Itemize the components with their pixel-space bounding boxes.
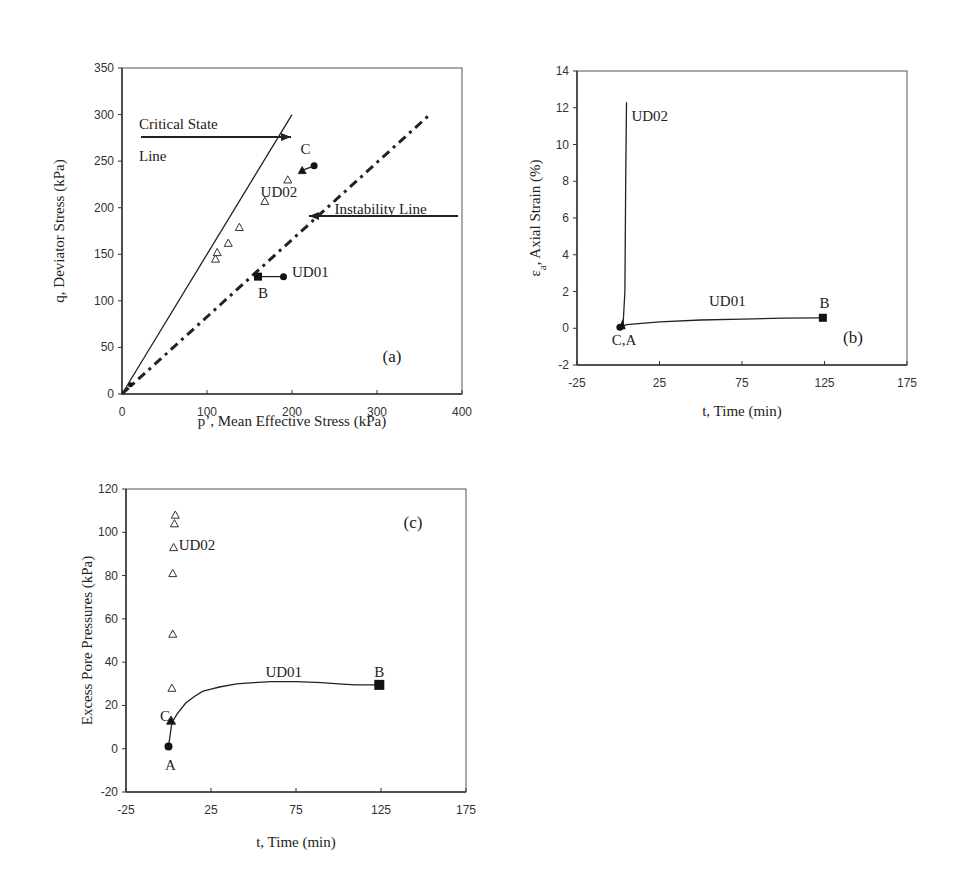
- panel-label: (c): [404, 513, 423, 532]
- annotation-c: C: [301, 141, 311, 157]
- y-tick-label: -2: [558, 358, 569, 372]
- x-tick-label: 175: [456, 803, 476, 817]
- y-tick-label: 120: [98, 482, 118, 496]
- y-tick-label: 100: [94, 294, 114, 308]
- y-tick-label: 150: [94, 247, 114, 261]
- series-ud01: [620, 318, 823, 328]
- y-tick-label: 2: [562, 285, 569, 299]
- x-tick-label: 175: [897, 376, 917, 390]
- start-point-marker: [280, 273, 287, 280]
- annotation-b: B: [820, 295, 830, 311]
- csl-arrow-icon-head: [281, 133, 291, 141]
- annotation-ud02: UD02: [631, 108, 668, 124]
- panel-label: (a): [383, 347, 402, 366]
- triangle-marker: [171, 511, 179, 518]
- point-b-marker: [819, 314, 827, 322]
- annotation-ud01: UD01: [292, 264, 329, 280]
- y-axis-label: q, Deviator Stress (kPa): [51, 159, 68, 302]
- annotation-b: B: [258, 285, 268, 301]
- x-axis-label: t, Time (min): [702, 403, 782, 420]
- annotation-ud02: UD02: [261, 184, 298, 200]
- triangle-marker: [169, 569, 177, 576]
- x-tick-label: -25: [568, 376, 586, 390]
- x-axis-label: t, Time (min): [256, 834, 336, 851]
- y-axis-label: Excess Pore Pressures (kPa): [79, 556, 96, 726]
- triangle-marker: [169, 630, 177, 637]
- y-tick-label: 0: [562, 321, 569, 335]
- y-axis-label: εa, Axial Strain (%): [527, 159, 548, 276]
- x-tick-label: 75: [289, 803, 303, 817]
- y-tick-label: 60: [105, 612, 119, 626]
- triangle-marker: [168, 684, 176, 691]
- annotation-ud01: UD01: [265, 664, 302, 680]
- y-tick-label: 6: [562, 211, 569, 225]
- x-axis-label: p’, Mean Effective Stress (kPa): [198, 413, 386, 430]
- y-tick-label: 300: [94, 108, 114, 122]
- triangle-marker: [170, 520, 178, 527]
- y-tick-label: 8: [562, 174, 569, 188]
- annotation-ud01: UD01: [709, 293, 746, 309]
- x-tick-label: 25: [653, 376, 667, 390]
- point-b-marker: [254, 273, 262, 281]
- annotation-line: Line: [139, 148, 167, 164]
- y-tick-label: 10: [556, 138, 570, 152]
- plot-frame: [126, 489, 466, 792]
- y-label-rest: , Axial Strain (%): [527, 159, 544, 265]
- y-tick-label: -20: [101, 785, 119, 799]
- chart-c-pore-pressure: -252575125175-20020406080100120t, Time (…: [79, 482, 476, 851]
- x-tick-label: 125: [814, 376, 834, 390]
- y-tick-label: 0: [107, 387, 114, 401]
- triangle-marker: [235, 223, 243, 230]
- x-tick-label: 75: [735, 376, 749, 390]
- y-tick-label: 80: [105, 569, 119, 583]
- annotation-c: C: [160, 708, 170, 724]
- x-tick-label: 25: [204, 803, 218, 817]
- annotation-instability-line: Instability Line: [335, 201, 427, 217]
- origin-marker: [128, 382, 133, 387]
- annotation-a: A: [165, 757, 176, 773]
- y-tick-label: 0: [111, 742, 118, 756]
- y-tick-label: 4: [562, 248, 569, 262]
- y-tick-label: 100: [98, 525, 118, 539]
- point-b-marker: [374, 680, 384, 690]
- series-ud02: [622, 102, 627, 326]
- annotation-b: B: [374, 664, 384, 680]
- y-tick-label: 350: [94, 61, 114, 75]
- panel-label: (b): [843, 328, 863, 347]
- chart-a-stress-path: 0100200300400050100150200250300350p’, Me…: [51, 61, 472, 430]
- instability-arrow-icon-head: [309, 212, 319, 220]
- annotation-c-a: C,A: [612, 332, 637, 348]
- y-tick-label: 40: [105, 655, 119, 669]
- y-tick-label: 250: [94, 154, 114, 168]
- x-tick-label: 0: [119, 405, 126, 419]
- triangle-marker: [224, 239, 232, 246]
- triangle-marker: [170, 543, 178, 550]
- point-a-marker: [165, 743, 173, 751]
- y-tick-label: 200: [94, 201, 114, 215]
- figure: 0100200300400050100150200250300350p’, Me…: [0, 0, 960, 877]
- annotation-ud02: UD02: [179, 537, 216, 553]
- x-tick-label: -25: [117, 803, 135, 817]
- y-tick-label: 12: [556, 101, 570, 115]
- x-tick-label: 400: [452, 405, 472, 419]
- triangle-marker: [213, 248, 221, 255]
- y-tick-label: 50: [101, 340, 115, 354]
- chart-b-axial-strain: -252575125175-202468101214t, Time (min)ε…: [527, 64, 917, 420]
- series-ud01: [169, 682, 380, 747]
- x-tick-label: 125: [371, 803, 391, 817]
- annotation-critical-state: Critical State: [139, 116, 218, 132]
- y-tick-label: 20: [105, 698, 119, 712]
- y-tick-label: 14: [556, 64, 570, 78]
- triangle-marker: [284, 176, 292, 183]
